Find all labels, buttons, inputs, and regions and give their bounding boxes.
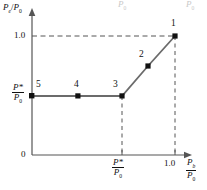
x-tick-label-pstar: P* P0: [112, 158, 124, 180]
x-tick-label-one: 1.0: [164, 159, 175, 168]
y-axis: [29, 8, 36, 155]
x-axis-label: Pb P0: [186, 158, 196, 182]
point-label-5: 5: [36, 80, 41, 90]
point-label-4: 4: [74, 80, 79, 90]
data-point-3: [119, 93, 124, 98]
data-point-1: [172, 33, 177, 38]
plot-canvas: [0, 0, 207, 190]
y-tick-label-one: 1.0: [14, 31, 25, 40]
data-point-5: [29, 93, 34, 98]
chart-figure: P0 P0 Pe/P0: [0, 0, 207, 190]
data-point-4: [75, 93, 80, 98]
origin-label: 0: [21, 150, 26, 159]
point-label-2: 2: [139, 50, 144, 60]
y-axis-label: Pe/P0: [3, 3, 22, 14]
data-point-2: [145, 63, 150, 68]
y-tick-label-pstar: P* P0: [12, 83, 24, 105]
point-label-1: 1: [171, 19, 176, 29]
point-label-3: 3: [113, 80, 118, 90]
data-series-line: [32, 36, 175, 96]
